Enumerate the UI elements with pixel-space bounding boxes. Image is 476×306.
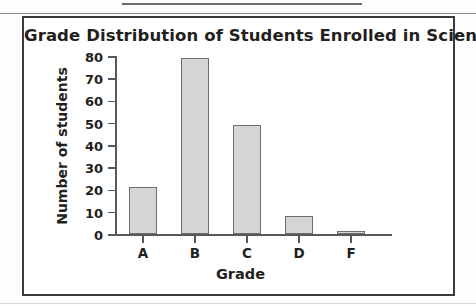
y-tick-10: 10 [108, 212, 115, 214]
x-tick-D [298, 236, 300, 243]
y-tick-70: 70 [108, 78, 115, 80]
bar-D [285, 216, 313, 234]
y-tick-20: 20 [108, 190, 115, 192]
x-tick-label-A: A [138, 245, 148, 261]
y-tick-label-80: 80 [85, 49, 103, 64]
x-tick-label-B: B [190, 245, 200, 261]
figure-frame: Grade Distribution of Students Enrolled … [22, 16, 455, 296]
y-tick-label-30: 30 [85, 161, 103, 176]
y-tick-30: 30 [108, 167, 115, 169]
y-tick-label-60: 60 [85, 94, 103, 109]
y-tick-label-70: 70 [85, 72, 103, 87]
scan-artifact-line-bottom [0, 303, 476, 304]
y-tick-40: 40 [108, 145, 115, 147]
y-axis-line [115, 56, 117, 236]
figure-page: Grade Distribution of Students Enrolled … [0, 0, 476, 306]
plot-area: 01020304050607080 ABCDF [115, 56, 415, 236]
y-tick-60: 60 [108, 101, 115, 103]
y-tick-label-0: 0 [94, 227, 103, 242]
y-tick-label-20: 20 [85, 183, 103, 198]
x-tick-label-C: C [242, 245, 252, 261]
y-tick-label-50: 50 [85, 116, 103, 131]
y-tick-50: 50 [108, 123, 115, 125]
scan-artifact-line-top [122, 3, 362, 5]
chart-title: Grade Distribution of Students Enrolled … [24, 26, 457, 45]
x-axis-title: Grade [24, 266, 457, 282]
bar-F [337, 231, 365, 234]
bar-B [181, 58, 209, 234]
x-tick-A [142, 236, 144, 243]
y-tick-0: 0 [108, 234, 115, 236]
x-tick-label-F: F [346, 245, 355, 261]
y-axis-title: Number of students [54, 67, 70, 225]
x-tick-B [194, 236, 196, 243]
bar-C [233, 125, 261, 234]
x-tick-F [350, 236, 352, 243]
x-tick-label-D: D [293, 245, 304, 261]
scan-artifact-line-upper-rule [0, 13, 476, 14]
x-tick-C [246, 236, 248, 243]
y-tick-label-40: 40 [85, 138, 103, 153]
y-tick-80: 80 [108, 56, 115, 58]
bar-A [129, 187, 157, 234]
y-tick-label-10: 10 [85, 205, 103, 220]
